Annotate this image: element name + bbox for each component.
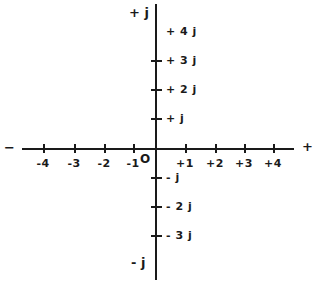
tick-mark-real-neg4 bbox=[43, 144, 45, 153]
tick-label-real-neg1: -1 bbox=[126, 158, 139, 169]
tick-mark-real-neg2 bbox=[104, 144, 106, 153]
tick-label-imag-pos2j: + 2 j bbox=[166, 84, 197, 95]
tick-mark-imag-neg3j bbox=[151, 235, 162, 237]
tick-label-imag-pos3j: + 3 j bbox=[166, 55, 197, 66]
imaginary-axis-negative-label: - j bbox=[131, 256, 145, 269]
tick-mark-real-pos2 bbox=[215, 144, 217, 153]
tick-label-real-pos3: +3 bbox=[235, 158, 253, 169]
tick-mark-real-neg1 bbox=[133, 144, 135, 153]
tick-mark-imag-pos1j bbox=[151, 118, 162, 120]
tick-label-imag-pos1j: + j bbox=[166, 113, 184, 124]
real-axis-positive-label: + bbox=[302, 140, 313, 153]
tick-mark-imag-neg1j bbox=[151, 177, 162, 179]
tick-mark-imag-pos3j bbox=[151, 60, 162, 62]
tick-label-real-pos1: +1 bbox=[176, 158, 194, 169]
tick-label-imag-pos4j: + 4 j bbox=[166, 26, 197, 37]
real-axis-negative-label: − bbox=[4, 141, 15, 154]
tick-label-imag-neg2j: - 2 j bbox=[166, 201, 192, 212]
tick-mark-real-pos4 bbox=[273, 144, 275, 153]
tick-label-real-neg2: -2 bbox=[97, 158, 110, 169]
tick-label-imag-neg1j: - j bbox=[166, 172, 180, 183]
imaginary-axis-line bbox=[155, 4, 157, 280]
complex-plane-figure: -4 -3 -2 -1 +1 +2 +3 +4 + 4 j + 3 j + 2 … bbox=[0, 0, 319, 283]
tick-label-imag-neg3j: - 3 j bbox=[166, 230, 192, 241]
tick-label-real-neg3: -3 bbox=[67, 158, 80, 169]
tick-label-real-pos4: +4 bbox=[264, 158, 282, 169]
tick-mark-imag-neg2j bbox=[151, 206, 162, 208]
tick-label-real-neg4: -4 bbox=[36, 158, 49, 169]
tick-mark-real-neg3 bbox=[74, 144, 76, 153]
tick-mark-imag-pos2j bbox=[151, 89, 162, 91]
tick-mark-real-pos1 bbox=[185, 144, 187, 153]
origin-label: O bbox=[140, 153, 150, 165]
imaginary-axis-positive-label: + j bbox=[129, 6, 149, 19]
tick-label-real-pos2: +2 bbox=[206, 158, 224, 169]
real-axis-line bbox=[22, 148, 294, 150]
tick-mark-real-pos3 bbox=[244, 144, 246, 153]
